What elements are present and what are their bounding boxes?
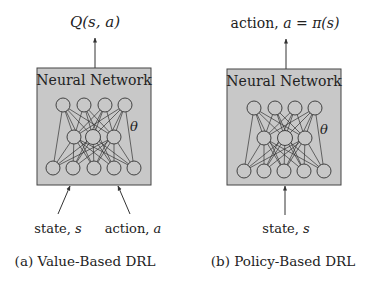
node bbox=[288, 101, 302, 115]
caption-a: (a) Value-Based DRL bbox=[15, 253, 156, 269]
node bbox=[46, 161, 60, 175]
node bbox=[298, 131, 312, 145]
node bbox=[98, 98, 112, 112]
output-label-action: action, a = π(s) bbox=[231, 15, 340, 31]
node bbox=[66, 161, 80, 175]
input-label-state: state, s bbox=[262, 221, 310, 236]
theta-parameter: θ bbox=[130, 119, 138, 134]
node bbox=[87, 161, 101, 175]
node bbox=[56, 98, 70, 112]
box-title: Neural Network bbox=[226, 73, 342, 89]
drl-diagram: Q(s, a) Neural Network bbox=[0, 0, 369, 288]
node bbox=[277, 164, 291, 178]
input-label-action: action, a bbox=[105, 221, 162, 236]
node bbox=[107, 161, 121, 175]
node bbox=[86, 130, 101, 145]
input-arrow-action bbox=[118, 186, 130, 214]
node bbox=[257, 131, 271, 145]
theta-parameter: θ bbox=[320, 122, 328, 137]
input-arrow-state bbox=[58, 186, 70, 214]
node bbox=[268, 101, 282, 115]
node bbox=[297, 164, 311, 178]
node bbox=[107, 130, 121, 144]
node bbox=[308, 101, 322, 115]
node bbox=[67, 130, 81, 144]
node bbox=[278, 131, 293, 146]
node bbox=[118, 98, 132, 112]
node bbox=[127, 161, 141, 175]
input-label-state: state, s bbox=[34, 221, 82, 236]
box-title: Neural Network bbox=[36, 72, 152, 88]
node bbox=[257, 164, 271, 178]
node bbox=[247, 101, 261, 115]
node bbox=[77, 98, 91, 112]
caption-b: (b) Policy-Based DRL bbox=[211, 253, 355, 269]
node bbox=[317, 164, 331, 178]
output-label-q: Q(s, a) bbox=[70, 13, 120, 31]
node bbox=[237, 164, 251, 178]
panel-policy-based: action, a = π(s) Neural Network bbox=[211, 15, 355, 269]
panel-value-based: Q(s, a) Neural Network bbox=[15, 13, 162, 269]
